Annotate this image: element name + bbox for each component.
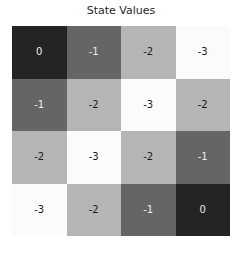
heatmap-cell: -2: [12, 131, 67, 184]
heatmap-cell: 0: [176, 184, 231, 237]
heatmap-cell: -2: [176, 79, 231, 132]
heatmap-figure: State Values 0-1-2-3-1-2-3-2-2-3-2-1-3-2…: [0, 0, 243, 261]
heatmap-cell: -1: [121, 184, 176, 237]
heatmap-cell: -3: [67, 131, 122, 184]
heatmap-grid: 0-1-2-3-1-2-3-2-2-3-2-1-3-2-10: [12, 26, 230, 236]
heatmap-cell: -3: [12, 184, 67, 237]
heatmap-cell: -3: [121, 79, 176, 132]
heatmap-cell: -2: [121, 131, 176, 184]
heatmap-cell: -2: [67, 79, 122, 132]
chart-title: State Values: [12, 4, 230, 18]
heatmap-cell: -2: [121, 26, 176, 79]
heatmap-cell: 0: [12, 26, 67, 79]
heatmap-cell: -2: [67, 184, 122, 237]
heatmap-cell: -1: [67, 26, 122, 79]
heatmap-cell: -1: [12, 79, 67, 132]
heatmap-cell: -3: [176, 26, 231, 79]
heatmap-cell: -1: [176, 131, 231, 184]
